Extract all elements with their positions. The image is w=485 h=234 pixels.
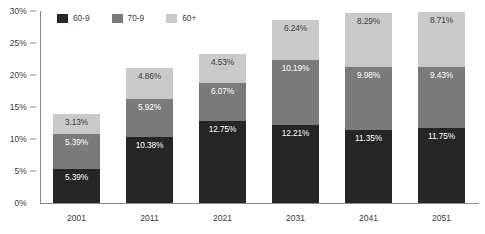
bar-stack: 4.53%6.07%12.75%	[199, 54, 246, 203]
chart-legend: 60-970-960+	[57, 13, 218, 23]
y-axis-tick-label: 20%	[10, 70, 27, 80]
bar-group[interactable]: 6.24%10.19%12.21%	[272, 11, 319, 203]
bar-group[interactable]: 3.13%5.39%5.39%	[53, 11, 100, 203]
bar-segment[interactable]: 8.29%	[345, 13, 392, 66]
y-axis-tick-mark	[30, 139, 36, 140]
legend-item-label: 70-9	[128, 13, 145, 23]
legend-swatch-icon	[166, 14, 177, 23]
bar-segment-value-label: 12.21%	[272, 128, 319, 138]
bar-segment[interactable]: 10.19%	[272, 60, 319, 125]
legend-item[interactable]: 60-9	[57, 13, 90, 23]
y-axis-tick-label: 30%	[10, 6, 27, 16]
bar-segment-value-label: 8.71%	[418, 15, 465, 25]
bar-segment-value-label: 8.29%	[345, 16, 392, 26]
bar-stack: 4.86%5.92%10.38%	[126, 68, 173, 203]
bar-segment[interactable]: 4.53%	[199, 54, 246, 83]
bar-segment-value-label: 5.39%	[53, 137, 100, 147]
bar-segment-value-label: 11.75%	[418, 131, 465, 141]
bar-segment-value-label: 9.98%	[345, 70, 392, 80]
plot-area: 3.13%5.39%5.39%4.86%5.92%10.38%4.53%6.07…	[40, 11, 478, 203]
bar-segment[interactable]: 10.38%	[126, 137, 173, 203]
legend-swatch-icon	[112, 14, 123, 23]
bar-segment-value-label: 12.75%	[199, 124, 246, 134]
stacked-bar-chart: 0%5%10%15%20%25%30% 3.13%5.39%5.39%4.86%…	[0, 0, 485, 234]
bar-segment[interactable]: 5.92%	[126, 99, 173, 137]
x-axis-tick-label: 2041	[339, 213, 399, 223]
bar-group[interactable]: 4.53%6.07%12.75%	[199, 11, 246, 203]
bar-segment[interactable]: 9.98%	[345, 67, 392, 131]
bar-segment[interactable]: 11.35%	[345, 130, 392, 203]
bar-stack: 3.13%5.39%5.39%	[53, 114, 100, 203]
bar-segment[interactable]: 6.24%	[272, 20, 319, 60]
bar-segment[interactable]: 11.75%	[418, 128, 465, 203]
x-axis-line	[40, 203, 479, 204]
bar-segment[interactable]: 3.13%	[53, 114, 100, 134]
bar-stack: 8.71%9.43%11.75%	[418, 12, 465, 203]
y-axis-tick-mark	[30, 171, 36, 172]
x-axis-tick-label: 2021	[193, 213, 253, 223]
legend-item-label: 60-9	[73, 13, 90, 23]
bar-segment[interactable]: 5.39%	[53, 169, 100, 203]
bar-group[interactable]: 8.29%9.98%11.35%	[345, 11, 392, 203]
y-axis-tick-label: 10%	[10, 134, 27, 144]
bar-stack: 6.24%10.19%12.21%	[272, 20, 319, 203]
bar-segment[interactable]: 9.43%	[418, 67, 465, 127]
bar-segment[interactable]: 5.39%	[53, 134, 100, 168]
bar-group[interactable]: 8.71%9.43%11.75%	[418, 11, 465, 203]
y-axis-tick-mark	[30, 107, 36, 108]
bar-segment-value-label: 5.92%	[126, 102, 173, 112]
bar-segment[interactable]: 4.86%	[126, 68, 173, 99]
bar-segment-value-label: 4.86%	[126, 71, 173, 81]
bar-segment[interactable]: 6.07%	[199, 83, 246, 122]
bar-segment-value-label: 4.53%	[199, 57, 246, 67]
bar-segment-value-label: 6.07%	[199, 86, 246, 96]
legend-swatch-icon	[57, 14, 68, 23]
bar-segment-value-label: 11.35%	[345, 133, 392, 143]
bar-stack: 8.29%9.98%11.35%	[345, 13, 392, 203]
y-axis-tick-label: 5%	[15, 166, 28, 176]
bar-segment-value-label: 10.19%	[272, 63, 319, 73]
bar-segment[interactable]: 12.75%	[199, 121, 246, 203]
legend-item[interactable]: 70-9	[112, 13, 145, 23]
x-axis-tick-label: 2001	[47, 213, 107, 223]
x-axis-tick-label: 2011	[120, 213, 180, 223]
y-axis-tick-mark	[30, 75, 36, 76]
bar-segment[interactable]: 8.71%	[418, 12, 465, 68]
y-axis-tick-label: 25%	[10, 38, 27, 48]
bar-group[interactable]: 4.86%5.92%10.38%	[126, 11, 173, 203]
y-axis-tick-mark	[30, 43, 36, 44]
legend-item-label: 60+	[182, 13, 196, 23]
legend-item[interactable]: 60+	[166, 13, 196, 23]
y-axis-tick-mark	[30, 11, 36, 12]
bar-segment-value-label: 5.39%	[53, 172, 100, 182]
bar-segment-value-label: 9.43%	[418, 70, 465, 80]
bar-segment[interactable]: 12.21%	[272, 125, 319, 203]
y-axis-tick-label: 0%	[15, 198, 28, 208]
y-axis-tick-label: 15%	[10, 102, 27, 112]
bar-segment-value-label: 3.13%	[53, 117, 100, 127]
bar-segment-value-label: 10.38%	[126, 140, 173, 150]
y-axis: 0%5%10%15%20%25%30%	[0, 0, 40, 234]
bar-segment-value-label: 6.24%	[272, 23, 319, 33]
x-axis-tick-label: 2031	[266, 213, 326, 223]
x-axis-tick-label: 2051	[412, 213, 472, 223]
